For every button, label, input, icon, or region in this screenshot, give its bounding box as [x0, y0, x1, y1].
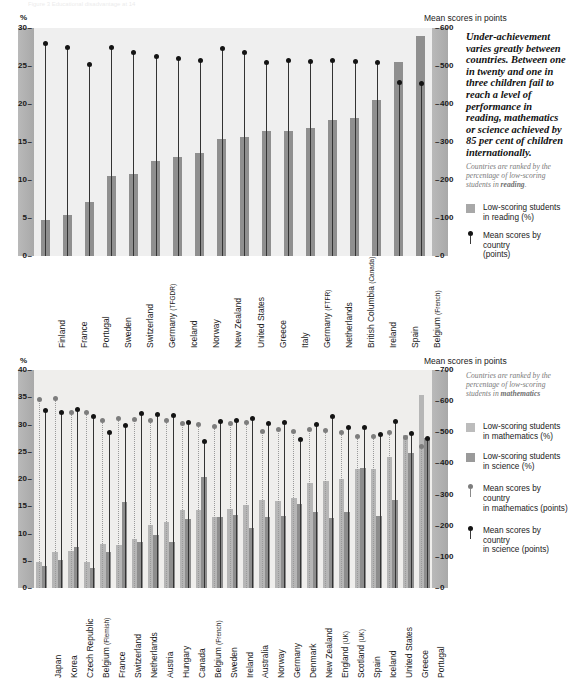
stem-mean-science	[268, 424, 269, 588]
dot-mean-science	[393, 419, 398, 424]
legend-label-line2: (points)	[483, 250, 568, 260]
y-tick-label: 5–	[10, 556, 32, 565]
chart-column	[56, 28, 78, 256]
reading-ranking-note-subject: reading	[501, 180, 525, 189]
chart-column	[336, 370, 352, 588]
dot-mean-maths	[387, 430, 392, 435]
y-tick-label: 25–	[10, 447, 32, 456]
stem-mean-maths	[55, 399, 56, 588]
legend-label-line1: Mean scores by country	[483, 484, 568, 503]
legend-label-line1: Low-scoring students	[483, 203, 568, 213]
x-axis-label: New Zealand	[324, 628, 334, 678]
x-axis-label: Germany (FTFR)	[322, 290, 332, 348]
x-axis-label: Sweden	[123, 317, 133, 348]
chart-column	[273, 370, 289, 588]
reading-lede-text: Under-achievement varies greatly between…	[466, 31, 566, 159]
dot-mean-maths	[276, 427, 281, 432]
x-axis-label: Portugal	[101, 316, 111, 348]
x-axis-label: Belgium (French)	[213, 620, 223, 678]
y-tick-label: 5–	[10, 213, 32, 222]
y-tick-label: 10–	[10, 175, 32, 184]
stem-mean-maths	[214, 426, 215, 588]
stem-mean-maths	[373, 436, 374, 588]
reading-series-container	[34, 28, 432, 256]
chart-column	[189, 28, 211, 256]
stem-mean-reading	[156, 57, 157, 256]
reading-x-axis-labels: FinlandFrancePortugalSwedenSwitzerlandGe…	[18, 256, 448, 348]
chart-column	[299, 28, 321, 256]
stem-mean-science	[236, 420, 237, 588]
stem-mean-reading	[67, 47, 68, 256]
dot-mean-reading	[43, 41, 48, 46]
dot-mean-science	[234, 418, 239, 423]
dot-mean-reading	[308, 59, 313, 64]
y-tick-label: 20–	[10, 474, 32, 483]
x-axis-label: Italy	[300, 332, 310, 348]
maths-ranking-note-subject: mathematics	[501, 389, 541, 398]
chart-column	[145, 28, 167, 256]
legend-item-low-scoring-reading: Low-scoring students in reading (%)	[466, 203, 568, 222]
dot-mean-science	[91, 414, 96, 419]
stem-mean-science	[125, 425, 126, 588]
stem-mean-science	[332, 416, 333, 588]
dot-mean-reading	[220, 46, 225, 51]
dot-mean-science	[123, 423, 128, 428]
stem-mean-reading	[200, 60, 201, 256]
chart-column	[211, 28, 233, 256]
reading-legend: Low-scoring students in reading (%) Mean…	[466, 203, 568, 267]
x-axis-label: Switzerland	[145, 304, 155, 348]
dot-mean-reading	[198, 58, 203, 63]
stem-mean-maths	[341, 433, 342, 588]
legend-label-line1: Mean scores by country	[483, 526, 568, 545]
stem-mean-science	[45, 410, 46, 588]
x-axis-label: Ireland	[245, 652, 255, 678]
stem-mean-reading	[89, 64, 90, 256]
dot-mean-maths	[403, 435, 408, 440]
chart-column	[384, 370, 400, 588]
dot-mean-science	[59, 410, 64, 415]
x-axis-label: Australia	[260, 645, 270, 678]
dot-mean-science	[298, 437, 303, 442]
dot-mean-science	[186, 420, 191, 425]
x-axis-label: United States	[404, 627, 414, 678]
x-axis-label: New Zealand	[233, 298, 243, 348]
y-tick-label: –600	[435, 396, 453, 405]
dot-mean-maths	[100, 418, 105, 423]
chart-column	[289, 370, 305, 588]
x-axis-label: United States	[256, 297, 266, 348]
legend-item-mean-maths: Mean scores by country in mathematics (p…	[466, 484, 568, 513]
stem-mean-maths	[278, 429, 279, 588]
chart-column	[114, 370, 130, 588]
stem-mean-science	[284, 423, 285, 588]
y-tick-label: –300	[435, 490, 453, 499]
chart-column	[366, 28, 388, 256]
y-tick-label: –100	[435, 552, 453, 561]
chart-column	[410, 28, 432, 256]
stem-mean-maths	[71, 412, 72, 588]
x-axis-label: Spain	[410, 326, 420, 348]
stem-mean-maths	[389, 432, 390, 588]
x-axis-label: Portugal	[436, 646, 446, 678]
x-axis-label: Norway	[276, 649, 286, 678]
dot-mean-science	[107, 430, 112, 435]
dot-mean-reading	[286, 58, 291, 63]
dot-mean-maths	[244, 420, 249, 425]
dot-mean-maths	[69, 410, 74, 415]
chart-column	[209, 370, 225, 588]
y-tick-label: 20–	[10, 99, 32, 108]
stem-mean-maths	[134, 420, 135, 588]
legend-stem-icon	[470, 236, 471, 244]
dot-mean-maths	[84, 410, 89, 415]
stem-mean-maths	[421, 447, 422, 588]
stem-mean-science	[380, 434, 381, 588]
stem-mean-reading	[178, 58, 179, 256]
stem-mean-science	[411, 433, 412, 588]
chart-column	[321, 28, 343, 256]
x-axis-label: Hungary	[181, 646, 191, 678]
stem-mean-reading	[421, 84, 422, 256]
dot-mean-maths	[180, 421, 185, 426]
legend-label-line2: in mathematics (%)	[483, 432, 568, 442]
y-tick-label: –200	[435, 175, 453, 184]
bar-swatch-maths-icon	[466, 423, 475, 432]
stem-mean-science	[173, 415, 174, 588]
